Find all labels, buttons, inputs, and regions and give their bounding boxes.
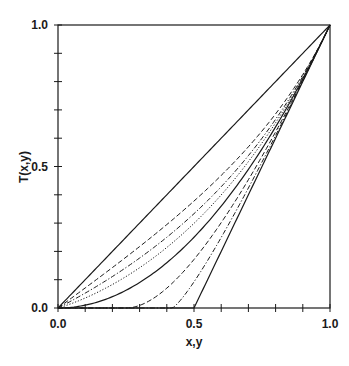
y-tick-label-1: 1.0 (31, 18, 48, 32)
y-tick-label-0: 0.0 (31, 301, 48, 315)
curve-series (58, 25, 330, 308)
x-tick-label-1: 1.0 (322, 317, 339, 331)
chart: 1.0 0.5 0.0 0.0 0.5 1.0 x,y T(x,y) (0, 0, 349, 366)
y-tick-label-mid: 0.5 (31, 160, 48, 174)
x-axis-label: x,y (186, 335, 203, 349)
x-tick-label-0: 0.0 (50, 317, 67, 331)
x-tick-label-mid: 0.5 (186, 317, 203, 331)
y-axis-label: T(x,y) (17, 151, 31, 183)
curve-1-line (58, 25, 330, 308)
